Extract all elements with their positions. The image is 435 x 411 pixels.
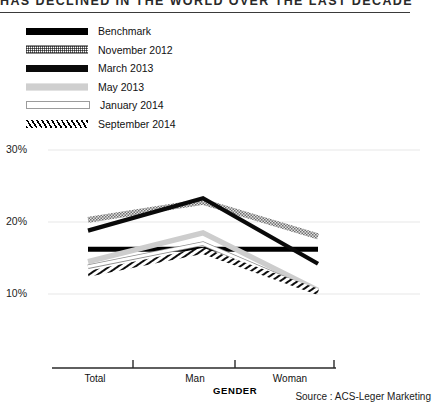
source-note: Source : ACS-Leger Marketing (295, 391, 431, 402)
x-axis-title: GENDER (213, 385, 257, 396)
chart-series-layer (88, 198, 318, 292)
chart-x-axis (52, 360, 336, 368)
chart-plot-area: 30% 20% 10% Total Man Woman GENDER (0, 0, 435, 411)
y-axis-tick-30: 30% (6, 143, 46, 155)
chart-svg (0, 0, 435, 411)
x-axis-label-total: Total (55, 373, 135, 384)
y-axis-tick-10: 10% (6, 287, 46, 299)
x-axis-label-man: Man (155, 373, 235, 384)
chart-page: HAS DECLINED IN THE WORLD OVER THE LAST … (0, 0, 435, 411)
y-axis-tick-20: 20% (6, 215, 46, 227)
x-axis-label-woman: Woman (250, 373, 330, 384)
